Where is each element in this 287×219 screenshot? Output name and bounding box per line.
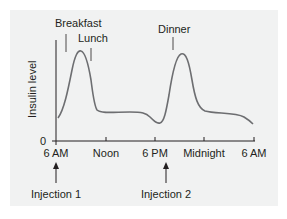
breakfast-label: Breakfast xyxy=(55,17,101,29)
arrow-up-icon xyxy=(53,162,59,169)
y-axis-label: Insulin level xyxy=(26,61,38,118)
x-tick-label-6pm: 6 PM xyxy=(142,147,168,159)
y-zero-label: 0 xyxy=(40,135,46,147)
x-tick-label-noon: Noon xyxy=(93,147,119,159)
insulin-curve xyxy=(58,51,253,124)
injection2-label: Injection 2 xyxy=(141,188,191,200)
injection1-label: Injection 1 xyxy=(31,188,81,200)
arrow-up-icon xyxy=(163,162,169,169)
lunch-label: Lunch xyxy=(78,32,108,44)
x-tick-label-midnight: Midnight xyxy=(183,147,225,159)
x-tick-label-6am-next: 6 AM xyxy=(241,147,266,159)
insulin-chart: Breakfast Lunch Dinner Insulin level 0 6… xyxy=(0,0,287,219)
dinner-label: Dinner xyxy=(158,23,191,35)
x-tick-label-6am: 6 AM xyxy=(43,147,68,159)
